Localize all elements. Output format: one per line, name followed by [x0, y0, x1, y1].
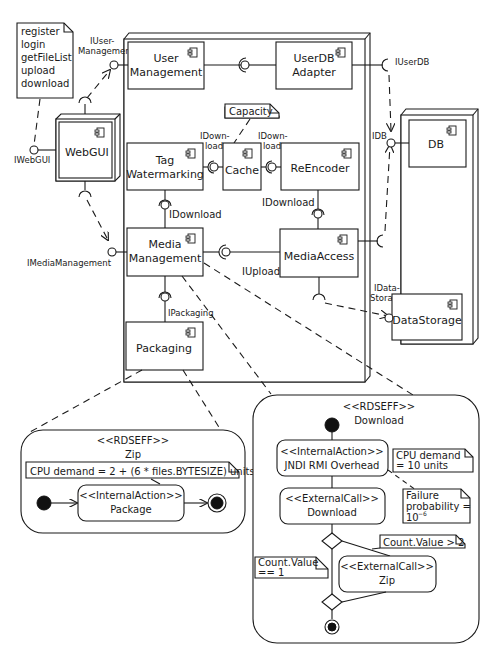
- imediamanagement-lollipop: [108, 248, 116, 256]
- op-getfilelist: getFileList: [21, 52, 72, 63]
- svg-text:Download: Download: [307, 507, 357, 518]
- webgui-required-socket-bottom: [79, 191, 91, 197]
- svg-text:<<ExternalCall>>: <<ExternalCall>>: [340, 561, 434, 572]
- svg-text:−6: −6: [418, 510, 427, 517]
- svg-text:UserDB: UserDB: [293, 52, 334, 65]
- svg-text:Capacity: Capacity: [229, 106, 273, 117]
- svg-text:IDown-: IDown-: [258, 131, 288, 141]
- tag-watermarking-component: Tag Watermarking: [126, 143, 204, 190]
- svg-text:Cache: Cache: [225, 164, 259, 177]
- count-eq-1-note: Count.Value == 1: [255, 557, 328, 578]
- svg-text:load: load: [263, 141, 281, 151]
- user-management-component: User Management: [128, 42, 204, 89]
- svg-text:Watermarking: Watermarking: [126, 168, 204, 181]
- idatastorage-label-1: IData-: [374, 283, 400, 293]
- svg-text:User: User: [153, 52, 179, 65]
- svg-text:load: load: [205, 141, 223, 151]
- webgui-label: WebGUI: [65, 146, 109, 159]
- svg-text:JNDI RMI Overhead: JNDI RMI Overhead: [284, 460, 380, 471]
- zip-cpu-demand-note: CPU demand = 2 + (6 * files.BYTESIZE) un…: [26, 462, 255, 478]
- idownload-label-tag: IDownload: [169, 209, 222, 220]
- note-anchor-line: [34, 99, 40, 145]
- component-diagram: register login getFileList upload downlo…: [0, 0, 494, 658]
- idatastorage-lollipop: [385, 314, 393, 322]
- op-register: register: [21, 26, 60, 37]
- reencoder-component: ReEncoder: [281, 143, 359, 190]
- svg-text:probability =: probability =: [406, 501, 471, 512]
- iuserdb-label: IUserDB: [395, 57, 429, 67]
- iusermanagement-lollipop: [110, 61, 118, 69]
- webgui-required-socket-top: [79, 97, 91, 103]
- svg-text:IDown-: IDown-: [200, 131, 230, 141]
- svg-text:Management: Management: [130, 66, 203, 79]
- svg-text:Packaging: Packaging: [136, 342, 192, 355]
- rdseff-download: <<RDSEFF>> Download <<InternalAction>> J…: [253, 395, 479, 643]
- op-login: login: [21, 39, 45, 50]
- svg-text:Download: Download: [354, 415, 404, 426]
- lollipop: [241, 61, 249, 69]
- svg-text:Media: Media: [148, 238, 181, 251]
- svg-text:Package: Package: [110, 504, 151, 515]
- svg-text:= 10 units: = 10 units: [396, 460, 448, 471]
- svg-text:<<RDSEFF>>: <<RDSEFF>>: [97, 435, 169, 446]
- failure-probability-note: Failure probability = 10 −6: [403, 489, 471, 523]
- svg-text:CPU demand = 2 + (6 * files.BY: CPU demand = 2 + (6 * files.BYTESIZE) un…: [30, 466, 255, 477]
- op-download: download: [21, 78, 69, 89]
- cpu-demand-note: CPU demand = 10 units: [393, 449, 473, 472]
- svg-text:MediaAccess: MediaAccess: [284, 250, 355, 263]
- svg-text:<<ExternalCall>>: <<ExternalCall>>: [285, 493, 379, 504]
- svg-text:10: 10: [406, 512, 419, 523]
- op-upload: upload: [21, 65, 55, 76]
- svg-text:Count.Value > 2: Count.Value > 2: [383, 537, 464, 548]
- svg-text:ReEncoder: ReEncoder: [291, 162, 350, 175]
- svg-text:Zip: Zip: [379, 575, 395, 586]
- iwebgui-label: IWebGUI: [14, 155, 50, 165]
- idb-lollipop: [387, 139, 395, 147]
- rdseff-zip: <<RDSEFF>> Zip CPU demand = 2 + (6 * fil…: [21, 430, 255, 533]
- svg-text:== 1: == 1: [258, 567, 284, 578]
- iwebgui-lollipop: [30, 146, 38, 154]
- svg-text:Adapter: Adapter: [292, 66, 336, 79]
- packaging-component: Packaging: [126, 322, 203, 370]
- svg-text:Tag: Tag: [155, 154, 175, 167]
- count-gt-2-note: Count.Value > 2: [380, 535, 465, 548]
- svg-text:Zip: Zip: [125, 449, 141, 460]
- webgui-node: WebGUI: [56, 114, 120, 181]
- svg-text:Management: Management: [129, 252, 202, 265]
- svg-text:<<RDSEFF>>: <<RDSEFF>>: [343, 401, 415, 412]
- media-access-component: MediaAccess: [280, 229, 358, 277]
- initial-node: [325, 418, 339, 432]
- cache-component: Cache: [223, 143, 261, 190]
- svg-text:Failure: Failure: [406, 490, 439, 501]
- iupload-label: IUpload: [242, 266, 280, 277]
- idb-label: IDB: [372, 131, 387, 141]
- idownload-label-reencoder: IDownload: [262, 197, 315, 208]
- userdb-adapter-component: UserDB Adapter: [276, 42, 352, 89]
- svg-text:<<InternalAction>>: <<InternalAction>>: [280, 446, 383, 457]
- iusermanagement-label-1: IUser-: [90, 36, 114, 46]
- db-component: DB: [409, 120, 466, 167]
- capacity-note: Capacity: [225, 104, 279, 118]
- svg-text:DB: DB: [428, 138, 444, 151]
- initial-node: [37, 496, 51, 510]
- svg-text:DataStorage: DataStorage: [392, 314, 462, 327]
- datastorage-component: DataStorage: [392, 294, 462, 340]
- imediamanagement-label: IMediaManagement: [27, 258, 112, 268]
- note-webgui-operations: register login getFileList upload downlo…: [17, 23, 73, 98]
- svg-text:<<InternalAction>>: <<InternalAction>>: [79, 490, 182, 501]
- iusermanagement-label-2: Management: [78, 46, 135, 56]
- media-management-component: Media Management: [127, 228, 203, 276]
